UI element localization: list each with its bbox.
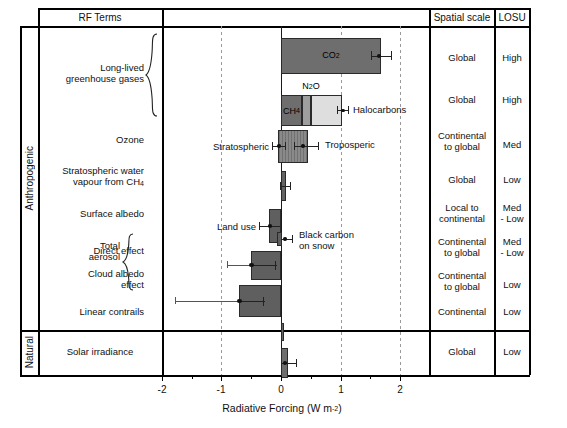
radiative-forcing-figure: RF Terms Spatial scale LOSU Anthropogeni… — [0, 0, 567, 428]
errorbar-direct-center — [249, 263, 254, 268]
bc-label-line2: on snow — [299, 240, 354, 251]
group-label-natural: Natural — [20, 330, 38, 375]
spatial-scale-contrails: Continental — [430, 304, 494, 318]
group-label-natural-text: Natural — [24, 336, 35, 368]
frame-left-inner — [38, 26, 40, 375]
row-label-swv-line2: vapour from CH4 — [44, 176, 144, 189]
bar-label-land-use: Land use — [173, 219, 256, 233]
errorbar-troposperic-cap-high — [318, 142, 319, 150]
row-label-strat-water-vapour: Stratospheric water vapour from CH4 — [44, 165, 144, 189]
errorbar-black-carbon-center — [283, 237, 287, 241]
errorbar-halocarbons-cap-high — [348, 106, 349, 114]
errorbar-solar-center — [283, 361, 287, 365]
errorbar-stratospheric-cap-low — [272, 142, 273, 150]
errorbar-co2-line — [371, 56, 392, 57]
errorbar-co2-cap-high — [391, 51, 392, 60]
errorbar-solar-cap-high — [296, 359, 297, 367]
spatial-scale-ozone-line2: to global — [430, 141, 494, 152]
errorbar-cloud-inner — [239, 301, 265, 302]
row-label-llghg-line2: greenhouse gases — [66, 73, 144, 84]
column-header-rf-terms: RF Terms — [38, 9, 162, 26]
tick-minor-minus-0-5 — [251, 376, 252, 379]
row-label-linear-contrails: Linear contrails — [44, 304, 144, 318]
errorbar-troposperic-cap-low — [294, 142, 295, 150]
tick-minor-0-5 — [311, 376, 312, 379]
spatial-scale-cloud-line1: Continental — [430, 270, 494, 281]
tick-major-minus-2 — [162, 376, 163, 381]
bar-label-halocarbons: Halocarbons — [353, 104, 406, 115]
spatial-scale-surface-albedo: Local to continental — [430, 202, 494, 224]
errorbar-land-use-cap-low — [259, 222, 260, 230]
tick-major-2 — [400, 376, 401, 381]
errorbar-stratospheric-center — [277, 144, 281, 148]
column-header-losu: LOSU — [495, 9, 529, 26]
errorbar-black-carbon-cap-high — [292, 235, 293, 243]
losu-direct: Med - Low — [495, 236, 529, 258]
spatial-scale-sa-line1: Local to — [430, 202, 494, 213]
errorbar-stratospheric-cap-high — [285, 142, 286, 150]
spatial-scale-sa-line2: continental — [430, 213, 494, 224]
plot-area: CO2 N2O CH4 Halocarbons Stratospheric Tr… — [163, 26, 421, 375]
errorbar-halocarbons-cap-low — [337, 106, 338, 114]
column-header-spatial-scale: Spatial scale — [430, 9, 494, 26]
brace-total-aerosol — [122, 233, 135, 291]
spatial-scale-cloud: Continental to global — [430, 270, 494, 292]
bc-label-line1: Black carbon — [299, 229, 354, 240]
losu-ozone: Med — [495, 137, 529, 151]
tick-major-minus-1 — [221, 376, 222, 381]
losu-sa-line1: Med — [495, 202, 529, 213]
tick-label-1: 1 — [327, 382, 355, 396]
errorbar-land-use-center — [268, 224, 272, 228]
losu-direct-line2: - Low — [495, 247, 529, 258]
gridline-minus-1 — [221, 26, 222, 375]
errorbar-direct-cap-low — [227, 261, 228, 268]
losu-sa-line2: - Low — [495, 213, 529, 224]
row-label-solar-irradiance: Solar irradiance — [40, 344, 160, 358]
losu-solar: Low — [495, 344, 529, 358]
errorbar-co2-cap-low — [371, 51, 372, 60]
spatial-scale-direct-line2: to global — [430, 247, 494, 258]
spatial-scale-solar: Global — [430, 344, 494, 358]
tick-major-1 — [341, 376, 342, 381]
errorbar-swv-cap-low — [280, 182, 281, 190]
gridline-plus-1 — [341, 26, 342, 375]
spatial-scale-direct-line1: Continental — [430, 236, 494, 247]
tick-label-minus-2: -2 — [148, 382, 176, 396]
bar-label-stratospheric: Stratospheric — [183, 139, 269, 153]
spatial-scale-co2: Global — [430, 50, 494, 64]
group-label-anthropogenic-text: Anthropogenic — [24, 146, 35, 211]
group-label-anthropogenic: Anthropogenic — [20, 26, 38, 330]
bar-label-co2: CO2 — [281, 46, 381, 64]
axis-title-main: Radiative Forcing (W m — [222, 402, 332, 414]
errorbar-troposperic-line — [294, 146, 319, 147]
brace-long-lived-ghg — [145, 33, 159, 117]
tick-label-minus-1: -1 — [207, 382, 235, 396]
bar-n2o — [302, 95, 311, 126]
errorbar-troposperic-center — [301, 144, 305, 148]
frame-bottom-line — [20, 375, 530, 377]
spatial-scale-direct: Continental to global — [430, 236, 494, 258]
gridline-plus-2 — [400, 26, 401, 375]
losu-surface-albedo: Med - Low — [495, 202, 529, 224]
errorbar-swv-cap-high — [290, 182, 291, 190]
tick-major-0 — [281, 376, 282, 381]
tick-minor-1-5 — [370, 376, 371, 379]
losu-ch4: High — [495, 92, 529, 106]
bar-label-ch4: CH4 — [281, 103, 302, 118]
row-label-llghg-line1: Long-lived — [100, 62, 144, 73]
tick-label-0: 0 — [267, 382, 295, 396]
losu-direct-line1: Med — [495, 236, 529, 247]
bar-linear-contrails — [281, 323, 284, 341]
losu-contrails: Low — [495, 304, 529, 318]
losu-cloud: Low — [495, 277, 529, 291]
bar-label-n2o: N2O — [281, 79, 341, 93]
errorbar-halocarbons-center — [341, 109, 345, 113]
losu-swv: Low — [495, 172, 529, 186]
axis-title-close: ) — [338, 402, 342, 414]
frame-outer-right — [529, 8, 531, 375]
bar-label-troposperic: Troposperic — [325, 139, 375, 150]
errorbar-cloud-center — [237, 299, 242, 304]
spatial-scale-ozone: Continental to global — [430, 130, 494, 152]
spatial-scale-ch4: Global — [430, 92, 494, 106]
row-label-surface-albedo: Surface albedo — [44, 206, 144, 220]
